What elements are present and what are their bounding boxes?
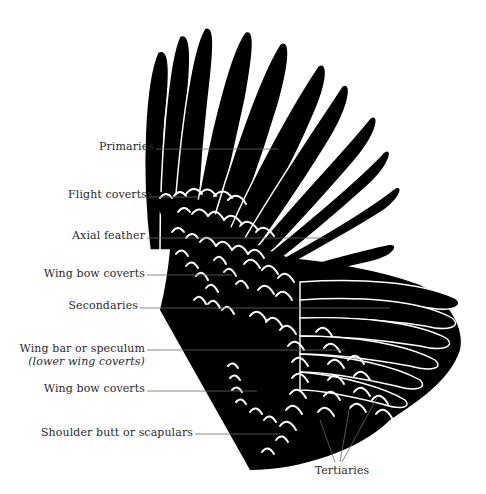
label-tertiaries: Tertiaries xyxy=(310,464,374,477)
label-wing-bar: Wing bar or speculum (lower wing coverts… xyxy=(20,342,145,368)
label-axial-feather: Axial feather xyxy=(72,229,145,242)
label-wing-bow-coverts-upper: Wing bow coverts xyxy=(44,267,145,280)
label-secondaries: Secondaries xyxy=(68,299,138,312)
label-wing-bar-text: Wing bar or speculum xyxy=(20,342,145,355)
label-shoulder-butt: Shoulder butt or scapulars xyxy=(41,426,193,439)
label-flight-coverts: Flight coverts xyxy=(68,188,147,201)
wing-diagram: Primaries Flight coverts Axial feather W… xyxy=(0,0,486,494)
wing-illustration xyxy=(0,0,486,494)
label-wing-bow-coverts-lower: Wing bow coverts xyxy=(44,382,145,395)
label-wing-bar-subtext: (lower wing coverts) xyxy=(20,355,145,368)
secondary-feathers xyxy=(300,281,459,408)
label-primaries: Primaries xyxy=(99,140,154,153)
